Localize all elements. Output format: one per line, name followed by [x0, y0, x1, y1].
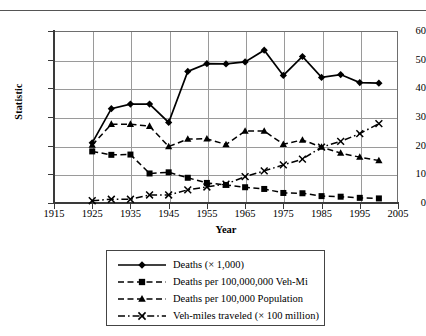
- chart-legend: Deaths (× 1,000)Deaths per 100,000,000 V…: [106, 250, 325, 326]
- data-point-marker: [222, 141, 229, 148]
- x-tick-label: 1985: [302, 209, 342, 220]
- data-point-marker: [146, 122, 153, 129]
- legend-item[interactable]: Deaths (× 1,000): [115, 256, 321, 273]
- data-point-marker: [337, 138, 344, 145]
- legend-marker-diamond-icon: [115, 257, 169, 273]
- x-tick-label: 1955: [187, 209, 227, 220]
- x-tick-mark: [398, 204, 399, 209]
- x-tick-mark: [92, 204, 93, 209]
- legend-marker-triangle-icon: [115, 291, 169, 307]
- data-point-marker: [376, 195, 382, 201]
- data-point-marker: [356, 130, 363, 137]
- data-point-marker: [203, 135, 210, 142]
- series-1: [89, 47, 383, 147]
- x-tick-label: 1915: [34, 209, 74, 220]
- x-tick-mark: [245, 204, 246, 209]
- y-tick-mark: [48, 31, 53, 32]
- x-tick-label: 1945: [149, 209, 189, 220]
- data-point-marker: [356, 79, 363, 86]
- data-point-marker: [166, 169, 172, 175]
- x-tick-mark: [322, 204, 323, 209]
- legend-item[interactable]: Deaths per 100,000,000 Veh-Mi: [115, 273, 321, 290]
- x-tick-label: 1975: [263, 209, 303, 220]
- data-point-marker: [261, 186, 267, 192]
- series-2: [89, 148, 382, 201]
- data-point-marker: [242, 184, 248, 190]
- y-tick-mark: [48, 60, 53, 61]
- x-tick-label: 1995: [340, 209, 380, 220]
- x-tick-mark: [169, 204, 170, 209]
- x-axis-title: Year: [54, 224, 398, 235]
- data-point-marker: [242, 127, 249, 134]
- plot-container: Statistic Year 6050403020100 19151925193…: [0, 0, 426, 240]
- data-point-marker: [319, 193, 325, 199]
- series-line: [92, 50, 379, 143]
- data-point-marker: [299, 136, 306, 143]
- y-tick-mark: [48, 88, 53, 89]
- data-point-marker: [127, 120, 134, 127]
- data-point-marker: [203, 60, 210, 67]
- data-point-marker: [375, 120, 382, 127]
- data-point-marker: [357, 195, 363, 201]
- data-point-marker: [242, 173, 249, 180]
- data-point-marker: [127, 152, 133, 158]
- x-tick-mark: [207, 204, 208, 209]
- legend-item[interactable]: Veh-miles traveled (× 100 million): [115, 307, 321, 324]
- data-point-marker: [337, 71, 344, 78]
- data-point-marker: [108, 105, 115, 112]
- y-tick-mark: [48, 203, 53, 204]
- x-tick-label: 1935: [110, 209, 150, 220]
- legend-marker-square-icon: [115, 274, 169, 290]
- data-point-marker: [184, 68, 191, 75]
- data-point-marker: [89, 148, 95, 154]
- legend-label: Veh-miles traveled (× 100 million): [169, 310, 319, 322]
- x-tick-mark: [54, 204, 55, 209]
- y-tick-mark: [48, 174, 53, 175]
- data-point-marker: [375, 80, 382, 87]
- x-tick-label: 1965: [225, 209, 265, 220]
- legend-label: Deaths (× 1,000): [169, 259, 244, 271]
- data-point-marker: [185, 175, 191, 181]
- x-tick-mark: [360, 204, 361, 209]
- x-tick-label: 2005: [378, 209, 418, 220]
- x-tick-label: 1925: [72, 209, 112, 220]
- data-point-marker: [147, 170, 153, 176]
- legend-marker-x-icon: [115, 308, 169, 324]
- legend-item[interactable]: Deaths per 100,000 Population: [115, 290, 321, 307]
- series-4: [89, 120, 382, 204]
- data-point-marker: [299, 156, 306, 163]
- data-point-marker: [108, 152, 114, 158]
- chart-page: Statistic Year 6050403020100 19151925193…: [0, 0, 426, 336]
- data-point-marker: [280, 190, 286, 196]
- data-point-marker: [299, 190, 305, 196]
- legend-label: Deaths per 100,000 Population: [169, 293, 303, 305]
- x-tick-mark: [130, 204, 131, 209]
- series-line: [92, 151, 379, 198]
- series-line: [92, 124, 379, 201]
- x-tick-mark: [283, 204, 284, 209]
- data-point-marker: [127, 101, 134, 108]
- y-tick-mark: [48, 117, 53, 118]
- data-point-marker: [222, 60, 229, 67]
- data-point-marker: [338, 194, 344, 200]
- y-tick-mark: [48, 146, 53, 147]
- data-series-layer: [54, 31, 398, 203]
- legend-label: Deaths per 100,000,000 Veh-Mi: [169, 276, 308, 288]
- y-axis-title: Statistic: [13, 72, 24, 132]
